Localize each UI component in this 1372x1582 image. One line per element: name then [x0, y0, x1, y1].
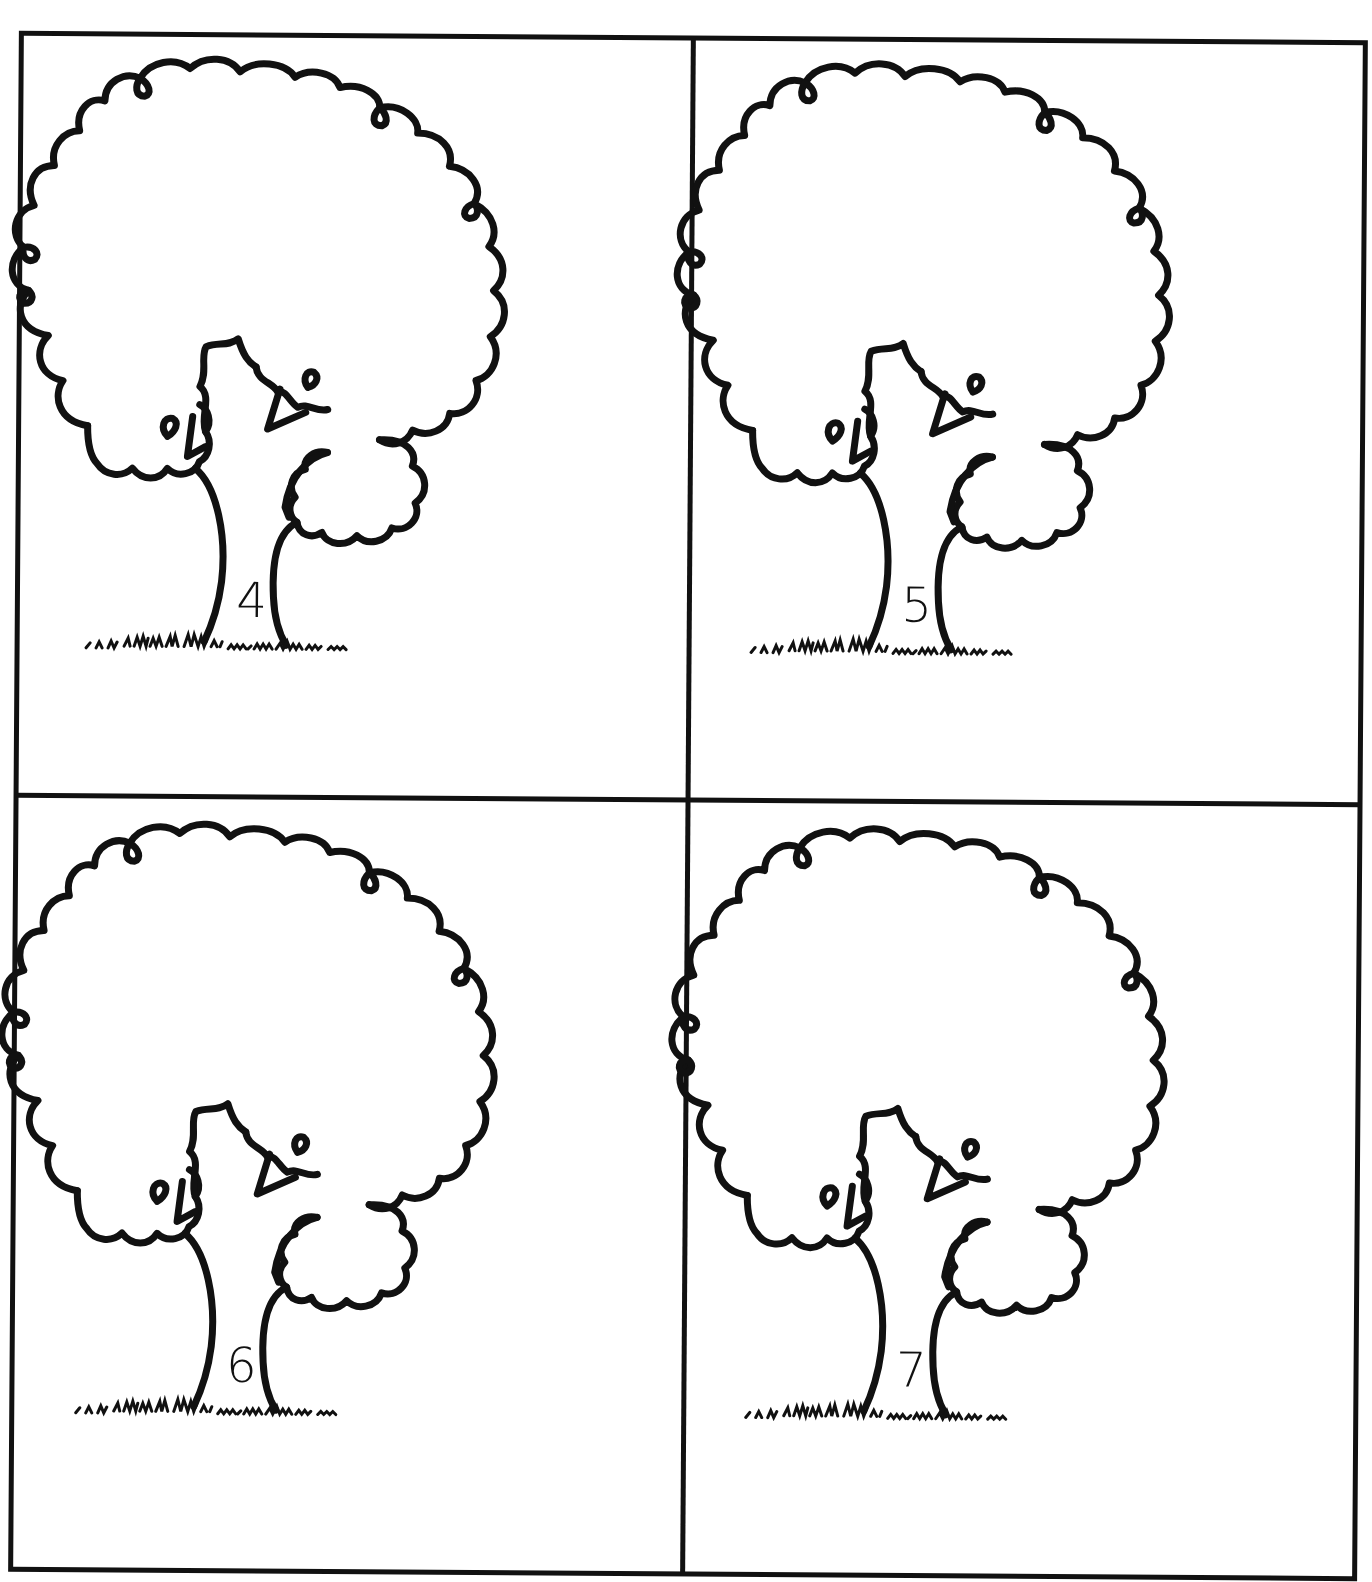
worksheet-page: 4 5 6 7 — [0, 0, 1372, 1582]
tree-outline-icon — [675, 62, 1172, 651]
tree-outline-icon — [0, 823, 496, 1412]
grid-vertical-divider — [683, 38, 694, 1574]
grass-icon — [746, 1403, 1006, 1419]
card-number: 7 — [896, 1341, 927, 1397]
grass-icon — [76, 1399, 336, 1415]
tree-outline-icon — [10, 58, 507, 647]
tree-outline-icon — [669, 827, 1166, 1416]
card-top-right: 5 — [675, 62, 1172, 655]
card-number: 4 — [236, 572, 267, 628]
grass-icon — [751, 638, 1011, 654]
card-number: 5 — [901, 576, 932, 632]
card-top-left: 4 — [10, 58, 507, 651]
card-bottom-right: 7 — [669, 827, 1166, 1420]
card-bottom-left: 6 — [0, 823, 496, 1416]
card-number: 6 — [226, 1337, 257, 1393]
grass-icon — [86, 634, 346, 650]
